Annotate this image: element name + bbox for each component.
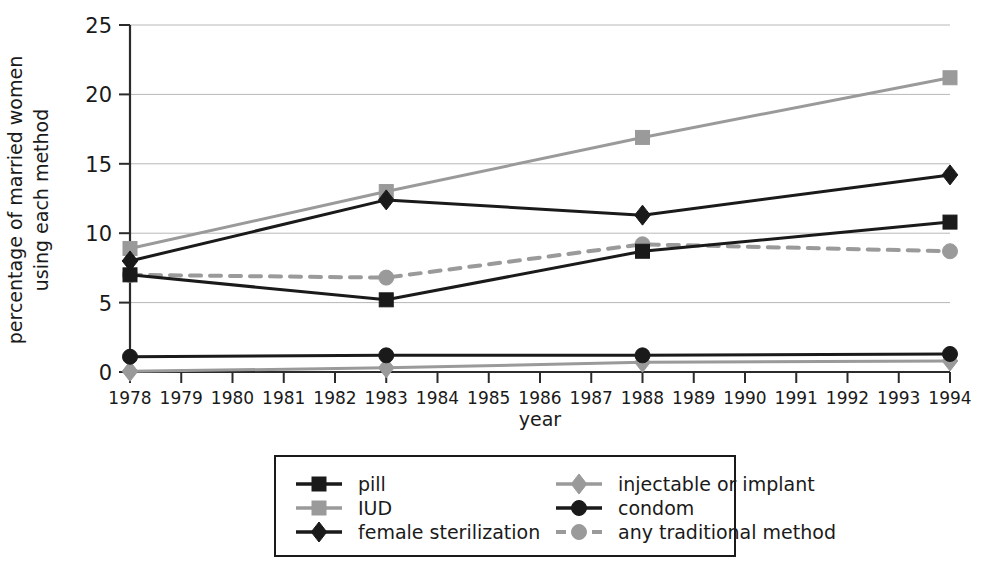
marker-IUD-1988 xyxy=(636,130,650,144)
marker-condom-1978 xyxy=(123,349,138,364)
marker-condom-1988 xyxy=(635,348,650,363)
x-tick-label-1990: 1990 xyxy=(723,388,766,408)
x-tick-label-1978: 1978 xyxy=(108,388,151,408)
marker-female-sterilization-1988 xyxy=(635,205,651,225)
legend-label-condom: condom xyxy=(618,497,694,519)
series-line-any-traditional-method xyxy=(130,244,950,277)
gridlines xyxy=(130,25,950,372)
y-tick-label-25: 25 xyxy=(85,14,112,38)
series-line-condom xyxy=(130,354,950,357)
marker-pill-1983 xyxy=(379,293,393,307)
x-tick-label-1992: 1992 xyxy=(826,388,869,408)
y-axis-title-line-2: using each method xyxy=(30,109,52,292)
legend-label-any-traditional-method: any traditional method xyxy=(618,521,836,543)
legend-swatch-marker-condom xyxy=(572,501,587,516)
series-line-pill xyxy=(130,222,950,300)
data-series-layer xyxy=(122,71,958,382)
marker-female-sterilization-1994 xyxy=(942,165,958,185)
y-axis-title: percentage of married women using each m… xyxy=(4,56,52,344)
x-axis-tick-labels: 1978197919801981198219831984198519861987… xyxy=(108,388,971,408)
series-pill xyxy=(123,215,957,307)
x-tick-label-1980: 1980 xyxy=(211,388,254,408)
legend-swatch-marker-pill xyxy=(312,477,326,491)
y-tick-label-5: 5 xyxy=(99,292,112,316)
series-any-traditional-method xyxy=(123,237,958,285)
marker-condom-1994 xyxy=(943,346,958,361)
axes xyxy=(119,25,950,383)
legend-swatch-marker-any-traditional-method xyxy=(572,525,587,540)
x-tick-label-1986: 1986 xyxy=(518,388,561,408)
marker-any-traditional-method-1994 xyxy=(943,244,958,259)
chart-legend: pillIUDfemale sterilizationinjectable or… xyxy=(275,456,836,556)
x-tick-label-1987: 1987 xyxy=(570,388,613,408)
y-axis-title-line-1: percentage of married women xyxy=(4,56,26,344)
legend-items: pillIUDfemale sterilizationinjectable or… xyxy=(296,473,836,543)
contraceptive-method-line-chart: 0510152025 19781979198019811982198319841… xyxy=(0,0,990,573)
legend-label-pill: pill xyxy=(358,473,386,495)
x-axis-title: year xyxy=(519,408,562,430)
x-tick-label-1981: 1981 xyxy=(262,388,305,408)
series-female-sterilization xyxy=(122,165,958,271)
y-tick-label-10: 10 xyxy=(85,222,112,246)
x-tick-label-1985: 1985 xyxy=(467,388,510,408)
series-IUD xyxy=(123,71,957,256)
y-tick-label-20: 20 xyxy=(85,83,112,107)
x-tick-label-1982: 1982 xyxy=(313,388,356,408)
y-tick-label-15: 15 xyxy=(85,153,112,177)
x-tick-label-1989: 1989 xyxy=(672,388,715,408)
series-line-IUD xyxy=(130,78,950,249)
marker-any-traditional-method-1983 xyxy=(379,270,394,285)
marker-condom-1983 xyxy=(379,348,394,363)
x-tick-label-1988: 1988 xyxy=(621,388,664,408)
legend-label-female-sterilization: female sterilization xyxy=(358,521,540,543)
legend-label-IUD: IUD xyxy=(358,497,392,519)
x-tick-label-1991: 1991 xyxy=(775,388,818,408)
marker-pill-1988 xyxy=(636,244,650,258)
x-tick-label-1979: 1979 xyxy=(160,388,203,408)
x-tick-marks xyxy=(130,372,950,383)
legend-swatch-marker-IUD xyxy=(312,501,326,515)
y-tick-label-0: 0 xyxy=(99,361,112,385)
y-axis-tick-labels: 0510152025 xyxy=(85,14,112,385)
x-tick-label-1994: 1994 xyxy=(928,388,971,408)
marker-pill-1994 xyxy=(943,215,957,229)
x-tick-label-1993: 1993 xyxy=(877,388,920,408)
series-line-injectable-or-implant xyxy=(130,361,950,371)
x-tick-label-1983: 1983 xyxy=(365,388,408,408)
y-tick-marks xyxy=(119,25,130,372)
x-tick-label-1984: 1984 xyxy=(416,388,459,408)
legend-label-injectable-or-implant: injectable or implant xyxy=(618,473,815,495)
chart-figure: 0510152025 19781979198019811982198319841… xyxy=(0,0,990,573)
marker-IUD-1994 xyxy=(943,71,957,85)
